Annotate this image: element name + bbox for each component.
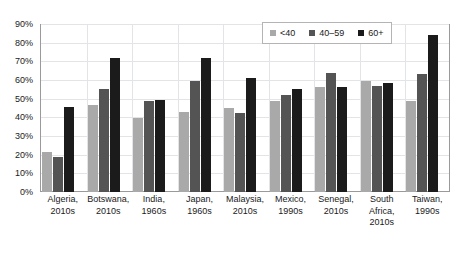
bar: [110, 58, 120, 192]
y-tick-label: 20%: [15, 150, 33, 159]
x-axis-label-line: 2010s: [222, 206, 268, 218]
x-axis-label: India,1960s: [131, 194, 177, 217]
legend-swatch-icon: [358, 30, 364, 36]
x-axis-label-line: Taiwan,: [404, 194, 450, 206]
x-axis-label-line: Senegal,: [313, 194, 359, 206]
bar: [133, 118, 143, 192]
bar: [337, 87, 347, 192]
y-tick-label: 0%: [20, 188, 33, 197]
bar-chart: 0%10%20%30%40%50%60%70%80%90% Algeria,20…: [0, 0, 469, 254]
bar: [224, 108, 234, 192]
y-axis: 0%10%20%30%40%50%60%70%80%90%: [0, 24, 36, 192]
y-tick-label: 40%: [15, 113, 33, 122]
bar: [144, 101, 154, 192]
bar: [281, 95, 291, 192]
legend-item[interactable]: <40: [270, 29, 295, 38]
x-axis-label-line: Mexico,: [268, 194, 314, 206]
x-axis-label: SouthAfrica,2010s: [359, 194, 405, 229]
x-axis-label-line: Malaysia,: [222, 194, 268, 206]
y-tick-label: 50%: [15, 94, 33, 103]
x-axis-label-line: 1990s: [268, 206, 314, 218]
bar: [235, 113, 245, 192]
bar: [292, 89, 302, 192]
x-axis-label-line: 2010s: [359, 217, 405, 229]
y-tick-label: 30%: [15, 132, 33, 141]
bar: [179, 112, 189, 192]
bar-group: [86, 24, 132, 192]
x-axis-label: Taiwan,1990s: [404, 194, 450, 217]
bar: [406, 101, 416, 192]
x-axis-label-line: 2010s: [313, 206, 359, 218]
bar: [372, 86, 382, 192]
bar: [53, 157, 63, 192]
x-axis-label-line: 2010s: [40, 206, 86, 218]
x-axis-label-line: 2010s: [86, 206, 132, 218]
y-tick-label: 10%: [15, 169, 33, 178]
bar-group: [268, 24, 314, 192]
x-axis-label: Japan,1960s: [177, 194, 223, 217]
legend-label: <40: [280, 29, 295, 38]
x-axis-label: Malaysia,2010s: [222, 194, 268, 217]
x-axis-label-line: Africa,: [359, 206, 405, 218]
legend-label: 60+: [368, 29, 383, 38]
bar-group: [359, 24, 405, 192]
bar-group: [313, 24, 359, 192]
x-axis-label-line: South: [359, 194, 405, 206]
bar: [201, 58, 211, 192]
legend-item[interactable]: 40–59: [309, 29, 344, 38]
legend: <4040–5960+: [262, 22, 392, 44]
x-axis-label: Botswana,2010s: [86, 194, 132, 217]
x-axis-label: Algeria,2010s: [40, 194, 86, 217]
bar-group: [404, 24, 450, 192]
bars-layer: [40, 24, 450, 192]
x-axis-label-line: Algeria,: [40, 194, 86, 206]
x-axis-label-line: Japan,: [177, 194, 223, 206]
bar-group: [222, 24, 268, 192]
x-axis-label-line: 1960s: [131, 206, 177, 218]
x-axis-label: Senegal,2010s: [313, 194, 359, 217]
bar: [315, 87, 325, 192]
y-tick-label: 60%: [15, 76, 33, 85]
bar: [88, 105, 98, 192]
bar: [155, 100, 165, 192]
bar: [428, 35, 438, 192]
bar-group: [177, 24, 223, 192]
bar-group: [40, 24, 86, 192]
bar: [417, 74, 427, 192]
x-axis-label: Mexico,1990s: [268, 194, 314, 217]
legend-swatch-icon: [270, 30, 276, 36]
x-axis-label-line: India,: [131, 194, 177, 206]
bar: [42, 152, 52, 192]
bar: [361, 81, 371, 192]
bar: [246, 78, 256, 192]
bar: [383, 83, 393, 192]
y-tick-label: 90%: [15, 20, 33, 29]
bar: [99, 89, 109, 192]
bar: [190, 81, 200, 192]
bar-group: [131, 24, 177, 192]
legend-label: 40–59: [319, 29, 344, 38]
x-axis-label-line: 1990s: [404, 206, 450, 218]
bar: [326, 73, 336, 192]
x-axis-labels: Algeria,2010sBotswana,2010sIndia,1960sJa…: [40, 194, 450, 250]
legend-item[interactable]: 60+: [358, 29, 383, 38]
bar: [64, 107, 74, 192]
y-tick-label: 70%: [15, 57, 33, 66]
legend-swatch-icon: [309, 30, 315, 36]
y-tick-label: 80%: [15, 38, 33, 47]
x-axis-label-line: 1960s: [177, 206, 223, 218]
x-axis-label-line: Botswana,: [86, 194, 132, 206]
bar: [270, 101, 280, 192]
